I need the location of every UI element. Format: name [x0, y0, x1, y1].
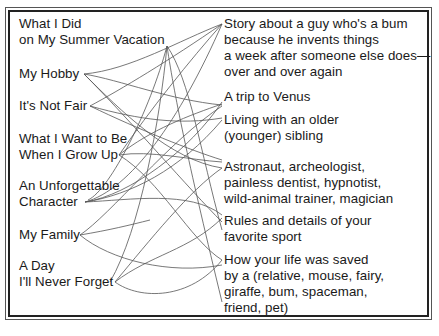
topic-my-family: My Family — [19, 227, 80, 243]
idea-sibling: Living with an older (younger) sibling — [224, 112, 339, 144]
idea-line: How your life was saved — [224, 252, 384, 268]
idea-life-saved: How your life was saved by a (relative, … — [224, 252, 384, 316]
topic-my-hobby: My Hobby — [19, 66, 79, 82]
idea-line: painless dentist, hypnotist, — [224, 175, 393, 191]
topic-line: Character — [19, 194, 120, 210]
idea-line: Astronaut, archeologist, — [224, 159, 393, 175]
topic-grow-up: What I Want to Be When I Grow Up — [19, 131, 127, 163]
topic-line: on My Summer Vacation — [19, 32, 165, 48]
topic-line: It's Not Fair — [19, 98, 87, 114]
idea-line: giraffe, bum, spaceman, — [224, 284, 384, 300]
idea-line: wild-animal trainer, magician — [224, 191, 393, 207]
idea-line: a week after someone else does— — [224, 48, 430, 64]
topic-line: My Family — [19, 227, 80, 243]
topic-not-fair: It's Not Fair — [19, 98, 87, 114]
topic-line: What I Did — [19, 16, 165, 32]
idea-line: favorite sport — [224, 229, 372, 245]
idea-line: (younger) sibling — [224, 128, 339, 144]
topic-line: What I Want to Be — [19, 131, 127, 147]
topic-line: I'll Never Forget — [19, 274, 113, 290]
topic-line: An Unforgettable — [19, 178, 120, 194]
idea-trip-to-venus: A trip to Venus — [224, 89, 311, 105]
idea-line: friend, pet) — [224, 300, 384, 316]
topic-day-never-forget: A Day I'll Never Forget — [19, 258, 113, 290]
topic-summer-vacation: What I Did on My Summer Vacation — [19, 16, 165, 48]
topic-unforgettable-character: An Unforgettable Character — [19, 178, 120, 210]
idea-line: Story about a guy who's a bum — [224, 16, 430, 32]
idea-bum-inventor: Story about a guy who's a bum because he… — [224, 16, 430, 80]
idea-careers: Astronaut, archeologist, painless dentis… — [224, 159, 393, 207]
topic-line: A Day — [19, 258, 113, 274]
idea-line: A trip to Venus — [224, 89, 311, 105]
topic-line: My Hobby — [19, 66, 79, 82]
idea-line: by a (relative, mouse, fairy, — [224, 268, 384, 284]
idea-line: Living with an older — [224, 112, 339, 128]
topic-line: When I Grow Up — [19, 147, 127, 163]
idea-line: Rules and details of your — [224, 213, 372, 229]
idea-line: because he invents things — [224, 32, 430, 48]
idea-line: over and over again — [224, 64, 430, 80]
idea-favorite-sport: Rules and details of your favorite sport — [224, 213, 372, 245]
